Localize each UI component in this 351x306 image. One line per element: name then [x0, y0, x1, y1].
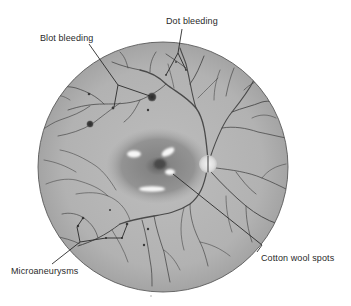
- fovea: [154, 159, 166, 169]
- label-blot-bleeding: Blot bleeding: [40, 33, 93, 44]
- label-cotton-wool-spots: Cotton wool spots: [261, 253, 334, 264]
- label-microaneurysms: Microaneurysms: [11, 266, 78, 277]
- label-dot-bleeding: Dot bleeding: [166, 16, 218, 27]
